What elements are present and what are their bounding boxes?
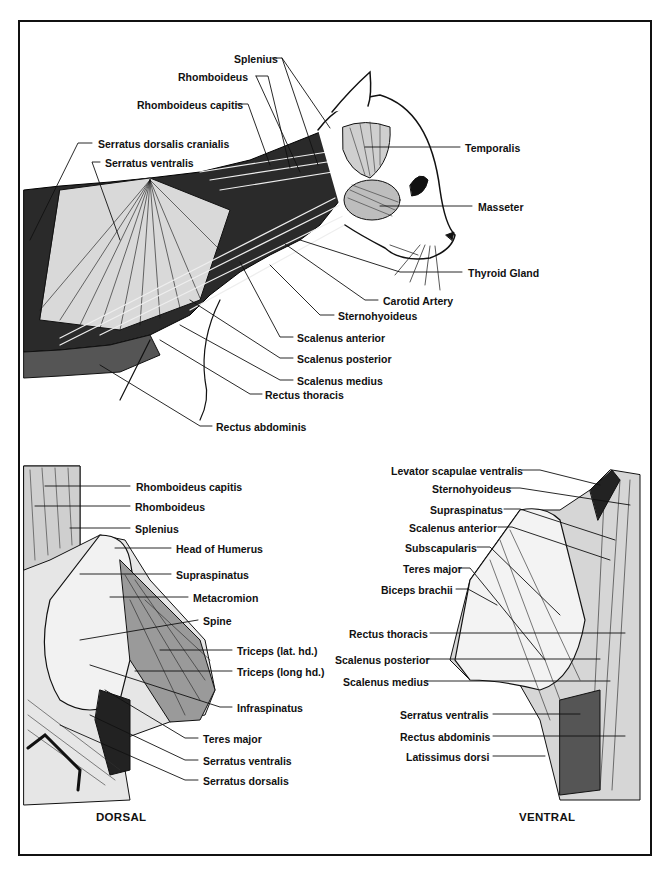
label-rectus-thoracis: Rectus thoracis — [265, 389, 344, 401]
label-biceps-brachii: Biceps brachii — [381, 584, 453, 596]
label-rhomboideus: Rhomboideus — [178, 71, 248, 83]
cat-lateral-drawing — [24, 72, 455, 420]
label-sternohyoideus: Sternohyoideus — [432, 483, 511, 495]
label-serratus-dorsalis: Serratus dorsalis — [203, 775, 289, 787]
label-scalenus-anterior: Scalenus anterior — [297, 332, 385, 344]
label-masseter: Masseter — [478, 201, 524, 213]
caption-ventral: VENTRAL — [519, 811, 575, 823]
label-scalenus-posterior: Scalenus posterior — [297, 353, 392, 365]
label-splenius: Splenius — [135, 523, 179, 535]
label-scalenus-posterior: Scalenus posterior — [335, 654, 430, 666]
label-scalenus-medius: Scalenus medius — [297, 375, 383, 387]
label-latissimus-dorsi: Latissimus dorsi — [406, 751, 489, 763]
label-temporalis: Temporalis — [465, 142, 520, 154]
anatomy-illustration — [0, 0, 669, 871]
label-supraspinatus: Supraspinatus — [176, 569, 249, 581]
dorsal-view-drawing — [24, 466, 215, 805]
label-supraspinatus: Supraspinatus — [430, 504, 503, 516]
label-serratus-ventralis: Serratus ventralis — [400, 709, 489, 721]
label-metacromion: Metacromion — [193, 592, 258, 604]
label-serratus-ventralis: Serratus ventralis — [105, 157, 194, 169]
label-teres-major: Teres major — [403, 563, 462, 575]
caption-dorsal: DORSAL — [96, 811, 146, 823]
label-serratus-ventralis: Serratus ventralis — [203, 755, 292, 767]
label-splenius: Splenius — [234, 53, 278, 65]
label-serratus-dorsalis-cranialis: Serratus dorsalis cranialis — [98, 138, 229, 150]
label-rectus-abdominis: Rectus abdominis — [216, 421, 306, 433]
label-spine: Spine — [203, 615, 232, 627]
label-rhomboideus-capitis: Rhomboideus capitis — [137, 99, 243, 111]
label-scalenus-anterior: Scalenus anterior — [409, 522, 497, 534]
label-rhomboideus-capitis: Rhomboideus capitis — [136, 481, 242, 493]
label-triceps-lat: Triceps (lat. hd.) — [237, 645, 318, 657]
label-teres-major: Teres major — [203, 733, 262, 745]
label-levator-scapulae-ventralis: Levator scapulae ventralis — [391, 465, 523, 477]
label-rectus-thoracis: Rectus thoracis — [349, 628, 428, 640]
label-scalenus-medius: Scalenus medius — [343, 676, 429, 688]
label-sternohyoideus: Sternohyoideus — [338, 310, 417, 322]
label-rhomboideus: Rhomboideus — [135, 501, 205, 513]
label-carotid-artery: Carotid Artery — [383, 295, 453, 307]
label-rectus-abdominis: Rectus abdominis — [400, 731, 490, 743]
label-infraspinatus: Infraspinatus — [237, 702, 303, 714]
label-head-of-humerus: Head of Humerus — [176, 543, 263, 555]
label-subscapularis: Subscapularis — [405, 542, 477, 554]
label-triceps-long: Triceps (long hd.) — [237, 666, 325, 678]
label-thyroid-gland: Thyroid Gland — [468, 267, 539, 279]
